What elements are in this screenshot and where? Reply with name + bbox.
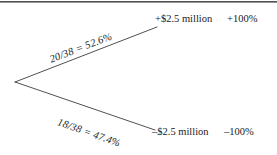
outcome-win-amount: +$2.5 million [155,13,227,24]
outcome-lose-amount: –$2.5 million [152,126,224,137]
outcome-win-percent: +100% [227,13,257,24]
probability-tree-figure: 20/38 = 52.6% 18/38 = 47.4% +$2.5 millio… [0,0,277,155]
outcome-lose-percent: –100% [224,126,254,137]
outcome-lose: –$2.5 million–100% [152,126,254,137]
branch-line-down [15,82,155,130]
branch-line-up [15,27,157,82]
outcome-win: +$2.5 million+100% [155,13,257,24]
